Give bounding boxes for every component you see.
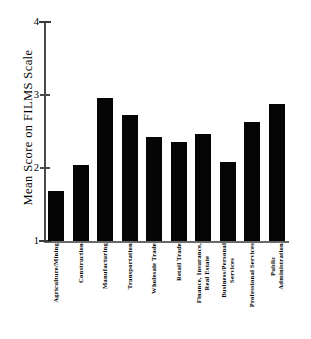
- y-tick-label: 4: [34, 17, 39, 28]
- x-tick-label: Transportation: [118, 243, 143, 337]
- x-tick-label-text: Retail Trade: [175, 243, 183, 281]
- bar: [244, 122, 260, 241]
- x-tick-label: Retail Trade: [167, 243, 192, 337]
- y-tick-label: 1: [34, 236, 39, 247]
- x-tick-label: Agriculture/Mining: [44, 243, 69, 337]
- x-tick-label-text: Manufacturing: [101, 243, 109, 289]
- x-tick-label-text: Finance, Insurance,Real Estate: [196, 243, 211, 303]
- x-tick-label: PublicAdministration: [265, 243, 290, 337]
- bar: [122, 115, 138, 241]
- plot-area: 1234: [44, 22, 289, 241]
- x-tick-label-text: Construction: [77, 243, 85, 283]
- x-tick-label-text: Wholesale Trade: [150, 243, 158, 294]
- bar: [48, 191, 64, 241]
- x-tick-label-text: Business/PersonalServices: [220, 243, 235, 298]
- bar: [269, 104, 285, 241]
- y-axis-title: Mean Score on FILMS Scale: [21, 28, 36, 228]
- x-tick-label: Manufacturing: [93, 243, 118, 337]
- bar: [146, 137, 162, 241]
- x-tick-label-text: Professional Services: [248, 243, 256, 307]
- bar: [195, 134, 211, 241]
- bar-chart: Mean Score on FILMS Scale 1234 Agricultu…: [0, 0, 311, 339]
- bar: [220, 162, 236, 241]
- x-tick-label-text: PublicAdministration: [269, 243, 284, 290]
- x-tick-label: Business/PersonalServices: [216, 243, 241, 337]
- x-tick-label: Professional Services: [240, 243, 265, 337]
- x-axis-tick-labels: Agriculture/MiningConstructionManufactur…: [44, 243, 289, 339]
- bar-series: [44, 22, 289, 241]
- y-tick-label: 2: [34, 163, 39, 174]
- y-tick-label: 3: [34, 90, 39, 101]
- x-tick-label: Finance, Insurance,Real Estate: [191, 243, 216, 337]
- x-tick-label-text: Agriculture/Mining: [52, 243, 60, 303]
- x-tick-label-text: Transportation: [126, 243, 134, 289]
- x-tick-label: Construction: [69, 243, 94, 337]
- x-tick-label: Wholesale Trade: [142, 243, 167, 337]
- bar: [73, 165, 89, 241]
- bar: [171, 142, 187, 241]
- bar: [97, 98, 113, 241]
